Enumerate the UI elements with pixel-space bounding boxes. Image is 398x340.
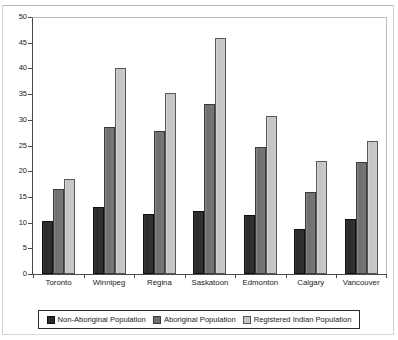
bar-group xyxy=(33,17,83,274)
y-axis-tick-mark xyxy=(28,146,32,147)
legend-swatch-icon xyxy=(47,316,55,324)
legend-label: Non-Aboriginal Population xyxy=(58,315,146,324)
y-axis-tick-mark xyxy=(28,248,32,249)
bar-group xyxy=(134,17,184,274)
frame-top-border xyxy=(2,5,394,6)
bar xyxy=(316,161,327,274)
bar xyxy=(215,38,226,274)
y-axis: 05101520253035404550 xyxy=(0,17,32,275)
bar xyxy=(104,127,115,274)
y-axis-tick-mark xyxy=(28,94,32,95)
legend-item: Aboriginal Population xyxy=(153,315,236,324)
x-axis: TorontoWinnipegReginaSaskatoonEdmontonCa… xyxy=(33,278,386,294)
x-axis-tick-mark xyxy=(336,274,337,278)
frame-right-border xyxy=(393,5,394,335)
frame-bottom-border xyxy=(2,334,394,335)
x-axis-tick-mark xyxy=(185,274,186,278)
bar xyxy=(367,141,378,274)
bar xyxy=(154,131,165,274)
legend-item: Registered Indian Population xyxy=(243,315,352,324)
bar xyxy=(294,229,305,274)
bar-chart: 05101520253035404550 TorontoWinnipegRegi… xyxy=(0,0,398,340)
x-axis-tick-label: Calgary xyxy=(286,278,336,287)
bar xyxy=(115,68,126,274)
bar xyxy=(266,116,277,274)
y-axis-tick-mark xyxy=(28,43,32,44)
x-axis-tick-mark xyxy=(235,274,236,278)
x-axis-tick-mark xyxy=(134,274,135,278)
bar xyxy=(204,104,215,274)
bar-group xyxy=(336,17,386,274)
x-axis-tick-mark xyxy=(33,274,34,278)
x-axis-tick-label: Edmonton xyxy=(235,278,285,287)
bar xyxy=(356,162,367,274)
legend-label: Registered Indian Population xyxy=(254,315,352,324)
y-axis-tick-mark xyxy=(28,197,32,198)
y-axis-tick-mark xyxy=(28,68,32,69)
bar xyxy=(255,147,266,274)
bars-layer xyxy=(33,17,386,274)
bar xyxy=(305,192,316,274)
bar xyxy=(64,179,75,274)
legend-label: Aboriginal Population xyxy=(164,315,236,324)
y-axis-tick-mark xyxy=(28,120,32,121)
x-axis-tick-mark xyxy=(286,274,287,278)
bar xyxy=(42,221,53,274)
x-axis-tick-label: Toronto xyxy=(33,278,83,287)
bar xyxy=(93,207,104,274)
bar xyxy=(244,215,255,274)
y-axis-tick-mark xyxy=(28,223,32,224)
x-axis-tick-mark xyxy=(84,274,85,278)
bar-group xyxy=(185,17,235,274)
bar xyxy=(143,214,154,274)
bar-group xyxy=(286,17,336,274)
legend-swatch-icon xyxy=(243,316,251,324)
x-axis-tick-label: Saskatoon xyxy=(185,278,235,287)
chart-legend: Non-Aboriginal PopulationAboriginal Popu… xyxy=(38,310,360,329)
x-axis-tick-label: Winnipeg xyxy=(84,278,134,287)
bar xyxy=(53,189,64,274)
y-axis-tick-mark xyxy=(28,171,32,172)
bar-group xyxy=(235,17,285,274)
bar xyxy=(345,219,356,275)
y-axis-tick-mark xyxy=(28,17,32,18)
bar xyxy=(165,93,176,274)
x-axis-tick-mark xyxy=(386,274,387,278)
bar xyxy=(193,211,204,274)
y-axis-tick-mark xyxy=(28,274,32,275)
legend-swatch-icon xyxy=(153,316,161,324)
bar-group xyxy=(84,17,134,274)
legend-item: Non-Aboriginal Population xyxy=(47,315,146,324)
x-axis-tick-label: Regina xyxy=(134,278,184,287)
x-axis-tick-label: Vancouver xyxy=(336,278,386,287)
